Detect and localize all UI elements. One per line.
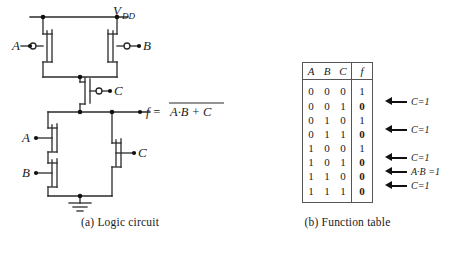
- table-row: 1 0 0 1: [303, 141, 373, 155]
- caption-function-table: (b) Function table: [240, 216, 455, 228]
- annotation-label: C=1: [411, 96, 429, 107]
- cell-a: 1: [303, 155, 320, 169]
- annotation-label: C=1: [411, 124, 429, 135]
- cell-f: 0: [352, 127, 373, 141]
- cell-a: 1: [303, 169, 320, 183]
- cell-b: 1: [319, 183, 335, 203]
- logic-circuit-diagram: V DD A B C A B C f = A·B + C: [0, 0, 240, 215]
- cell-c: 1: [335, 155, 352, 169]
- annotation-row-6: C=1: [385, 152, 429, 163]
- cell-a: 0: [303, 127, 320, 141]
- label-b-top: B: [143, 38, 151, 53]
- cell-b: 0: [319, 141, 335, 155]
- cell-b: 1: [319, 169, 335, 183]
- node-pmos-parallel: [78, 75, 83, 80]
- left-arrow-icon: [385, 153, 407, 162]
- function-table-wrap: A B C f 0 0 0 1 0 0 1 0: [302, 62, 373, 203]
- cell-a: 0: [303, 99, 320, 113]
- annotation-row-4: C=1: [385, 124, 429, 135]
- cell-f: 1: [352, 141, 373, 155]
- cell-c: 0: [335, 113, 352, 127]
- terminal-c-mid: [108, 89, 112, 93]
- label-a-top: A: [11, 38, 20, 53]
- node-output-left: [78, 110, 83, 115]
- col-header-b: B: [319, 63, 335, 80]
- terminal-b-bot: [34, 171, 38, 175]
- left-arrow-icon: [385, 167, 407, 176]
- terminal-b-top: [137, 44, 141, 48]
- cell-a: 0: [303, 80, 320, 100]
- label-c-mid: C: [114, 83, 123, 98]
- left-arrow-icon: [385, 125, 407, 134]
- table-row: 0 0 1 0: [303, 99, 373, 113]
- annotation-row-2: C=1: [385, 96, 429, 107]
- cell-a: 1: [303, 141, 320, 155]
- table-row: 0 1 1 0: [303, 127, 373, 141]
- terminal-c-bot: [132, 151, 136, 155]
- cell-f: 0: [352, 169, 373, 183]
- cell-c: 0: [335, 169, 352, 183]
- cell-c: 0: [335, 80, 352, 100]
- col-header-a: A: [303, 63, 320, 80]
- annotation-label: C=1: [411, 180, 429, 191]
- cell-b: 0: [319, 99, 335, 113]
- cell-a: 0: [303, 113, 320, 127]
- vdd-subscript: DD: [121, 11, 135, 21]
- cell-f: 0: [352, 99, 373, 113]
- node-ground: [78, 194, 83, 199]
- table-row: 1 0 1 0: [303, 155, 373, 169]
- cell-f: 0: [352, 155, 373, 169]
- annotation-row-7: A·B =1: [385, 166, 440, 177]
- cell-c: 0: [335, 141, 352, 155]
- terminal-a-top: [28, 44, 32, 48]
- annotation-label: C=1: [411, 152, 429, 163]
- table-header-row: A B C f: [303, 63, 373, 80]
- cell-b: 0: [319, 155, 335, 169]
- cell-c: 1: [335, 99, 352, 113]
- cell-b: 1: [319, 127, 335, 141]
- node-vdd-left: [41, 15, 46, 20]
- function-table-panel: A B C f 0 0 0 1 0 0 1 0: [240, 0, 455, 255]
- function-table-head: A B C f: [303, 63, 373, 80]
- col-header-c: C: [335, 63, 352, 80]
- table-row: 0 0 0 1: [303, 80, 373, 100]
- caption-logic-circuit: (a) Logic circuit: [0, 216, 240, 228]
- logic-circuit-panel: V DD A B C A B C f = A·B + C (a) Logic c…: [0, 0, 240, 255]
- table-row: 0 1 0 1: [303, 113, 373, 127]
- table-row: 1 1 0 0: [303, 169, 373, 183]
- junction-dots: [28, 15, 142, 199]
- node-output-right: [110, 110, 115, 115]
- cell-b: 1: [319, 113, 335, 127]
- cell-b: 0: [319, 80, 335, 100]
- output-label-prefix: f =: [146, 105, 161, 119]
- label-c-bot: C: [138, 145, 147, 160]
- cell-c: 1: [335, 127, 352, 141]
- pmos-c-bubble: [96, 88, 102, 94]
- pmos-b-bubble: [124, 43, 130, 49]
- function-table-body: 0 0 0 1 0 0 1 0 0 1 0 1 0: [303, 80, 373, 203]
- cell-c: 1: [335, 183, 352, 203]
- output-label-expression: A·B + C: [169, 105, 212, 119]
- label-a-bot: A: [21, 130, 30, 145]
- left-arrow-icon: [385, 181, 407, 190]
- label-b-bot: B: [22, 165, 30, 180]
- table-row: 1 1 1 0: [303, 183, 373, 203]
- cell-f: 1: [352, 113, 373, 127]
- col-header-f: f: [352, 63, 373, 80]
- cell-f: 1: [352, 80, 373, 100]
- annotation-row-8: C=1: [385, 180, 429, 191]
- function-table: A B C f 0 0 0 1 0 0 1 0: [302, 62, 373, 203]
- terminal-a-bot: [34, 136, 38, 140]
- cell-f: 0: [352, 183, 373, 203]
- annotation-label: A·B =1: [411, 166, 440, 177]
- terminal-output: [138, 110, 142, 114]
- cell-a: 1: [303, 183, 320, 203]
- left-arrow-icon: [385, 97, 407, 106]
